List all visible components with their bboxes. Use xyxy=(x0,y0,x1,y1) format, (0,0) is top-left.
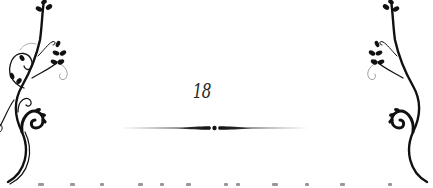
tapered-divider-icon xyxy=(119,121,310,135)
floral-vine-ornament-right-icon xyxy=(355,0,433,188)
cropped-text-line xyxy=(0,183,393,188)
page-number: 18 xyxy=(60,78,343,104)
